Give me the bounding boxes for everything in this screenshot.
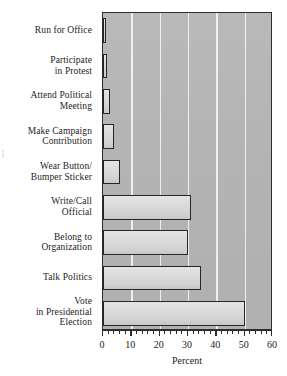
x-tick-minor xyxy=(176,330,177,334)
gridline xyxy=(216,13,217,329)
bar-chart: Run for OfficeParticipate in ProtestAtte… xyxy=(0,0,287,376)
x-tick-minor xyxy=(261,330,262,334)
category-label: Make Campaign Contribution xyxy=(0,125,92,146)
x-tick-label: 60 xyxy=(267,338,277,351)
x-tick-minor xyxy=(227,330,228,334)
x-tick-minor xyxy=(210,330,211,334)
x-tick-minor xyxy=(153,330,154,334)
bar xyxy=(103,160,120,185)
bar xyxy=(103,89,110,114)
x-tick-minor xyxy=(113,330,114,334)
bar xyxy=(103,124,114,149)
bar xyxy=(103,195,191,220)
category-label: Wear Button/ Bumper Sticker xyxy=(0,161,92,182)
x-tick-major xyxy=(271,330,272,336)
x-tick-minor xyxy=(255,330,256,334)
gridline xyxy=(245,13,246,329)
category-label: Talk Politics xyxy=(0,272,92,283)
bar xyxy=(103,230,188,255)
category-label: Write/Call Official xyxy=(0,196,92,217)
category-label: Participate in Protest xyxy=(0,55,92,76)
category-label: Attend Political Meeting xyxy=(0,90,92,111)
category-label: Belong to Organization xyxy=(0,231,92,252)
bar xyxy=(103,266,201,291)
bar xyxy=(103,18,106,43)
x-tick-minor xyxy=(136,330,137,334)
x-tick-major xyxy=(187,330,188,336)
x-tick-major xyxy=(244,330,245,336)
x-tick-label: 40 xyxy=(210,338,220,351)
x-tick-minor xyxy=(108,330,109,334)
page-margin-artifact: | xyxy=(2,150,6,162)
x-tick-minor xyxy=(204,330,205,334)
x-tick-minor xyxy=(249,330,250,334)
bar xyxy=(103,54,107,79)
x-tick-minor xyxy=(221,330,222,334)
x-tick-label: 0 xyxy=(100,338,105,351)
plot-area xyxy=(102,12,272,330)
x-tick-minor xyxy=(181,330,182,334)
x-axis-title: Percent xyxy=(102,355,272,366)
x-tick-major xyxy=(102,330,103,336)
x-tick-minor xyxy=(142,330,143,334)
x-tick-label: 20 xyxy=(154,338,164,351)
x-tick-minor xyxy=(238,330,239,334)
x-tick-minor xyxy=(266,330,267,334)
x-tick-major xyxy=(159,330,160,336)
x-tick-label: 30 xyxy=(182,338,192,351)
x-tick-minor xyxy=(198,330,199,334)
bar xyxy=(103,301,245,326)
category-axis-labels: Run for OfficeParticipate in ProtestAtte… xyxy=(0,12,96,330)
x-tick-major xyxy=(130,330,131,336)
x-axis xyxy=(102,330,272,337)
x-tick-minor xyxy=(193,330,194,334)
x-tick-minor xyxy=(119,330,120,334)
x-tick-minor xyxy=(232,330,233,334)
x-tick-minor xyxy=(125,330,126,334)
category-label: Vote in Presidential Election xyxy=(0,297,92,329)
x-tick-major xyxy=(215,330,216,336)
category-label: Run for Office xyxy=(0,24,92,35)
x-axis-tick-labels: 0102030405060 xyxy=(102,338,272,352)
x-tick-minor xyxy=(164,330,165,334)
x-tick-minor xyxy=(170,330,171,334)
x-tick-label: 50 xyxy=(239,338,249,351)
x-tick-minor xyxy=(147,330,148,334)
x-tick-label: 10 xyxy=(125,338,135,351)
